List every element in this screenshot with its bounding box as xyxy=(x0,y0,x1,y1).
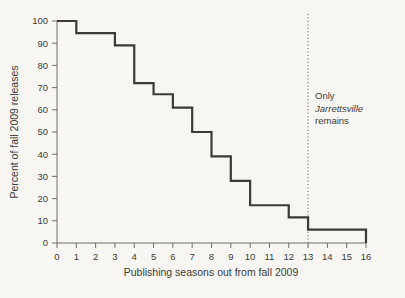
y-tick-label: 90 xyxy=(37,38,48,49)
y-tick-label: 10 xyxy=(37,215,48,226)
x-tick-label: 9 xyxy=(228,251,233,262)
y-tick-label: 50 xyxy=(37,126,48,137)
x-tick-label: 6 xyxy=(170,251,175,262)
x-tick-label: 12 xyxy=(283,251,294,262)
x-tick-label: 7 xyxy=(190,251,195,262)
x-tick-label: 16 xyxy=(361,251,372,262)
annotation-line-2: remains xyxy=(315,115,349,126)
x-axis-title: Publishing seasons out from fall 2009 xyxy=(124,266,299,278)
y-tick-label: 20 xyxy=(37,193,48,204)
x-tick-label: 1 xyxy=(74,251,79,262)
x-tick-label: 14 xyxy=(322,251,333,262)
annotation-line-0: Only xyxy=(315,90,335,101)
y-tick-label: 0 xyxy=(43,237,48,248)
x-tick-label: 11 xyxy=(265,251,275,262)
y-axis-title: Percent of fall 2009 releases xyxy=(8,65,20,198)
annotation-line-1: Jarrettsville xyxy=(314,103,363,114)
x-tick-label: 3 xyxy=(112,251,117,262)
x-tick-label: 8 xyxy=(209,251,214,262)
y-tick-label: 30 xyxy=(37,171,48,182)
x-tick-label: 0 xyxy=(54,251,59,262)
step-chart-figure: 0102030405060708090100 Percent of fall 2… xyxy=(0,0,405,298)
x-tick-label: 4 xyxy=(132,251,137,262)
y-tick-label: 40 xyxy=(37,149,48,160)
x-tick-label: 5 xyxy=(151,251,156,262)
y-tick-label: 70 xyxy=(37,82,48,93)
x-tick-label: 2 xyxy=(93,251,98,262)
x-tick-label: 10 xyxy=(245,251,256,262)
y-tick-label: 60 xyxy=(37,104,48,115)
x-tick-label: 15 xyxy=(341,251,352,262)
x-tick-label: 13 xyxy=(303,251,314,262)
y-tick-label: 80 xyxy=(37,60,48,71)
y-tick-label: 100 xyxy=(32,15,48,26)
